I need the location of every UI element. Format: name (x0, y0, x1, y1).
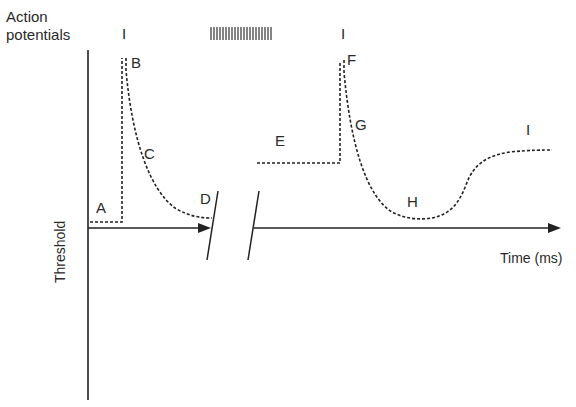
label-h: H (407, 194, 418, 209)
threshold-curve-1 (90, 58, 212, 222)
label-i: I (526, 122, 530, 137)
label-b: B (131, 55, 141, 70)
x-axis-arrow-2 (548, 223, 561, 233)
burst-spike-marks (211, 27, 271, 40)
threshold-curve-2 (257, 60, 552, 219)
y-axis-label: Threshold (52, 221, 68, 283)
label-f: F (347, 52, 356, 67)
x-axis-arrow-1 (198, 223, 211, 233)
label-d: D (200, 191, 211, 206)
label-a: A (96, 200, 106, 215)
label-g: G (355, 117, 367, 132)
spike-mark-2: I (341, 26, 345, 41)
threshold-diagram (0, 0, 576, 407)
x-axis-label: Time (ms) (500, 250, 562, 266)
axis-break-right (248, 191, 259, 260)
label-e: E (275, 133, 285, 148)
spike-mark-1: I (122, 26, 126, 41)
label-c: C (144, 146, 155, 161)
